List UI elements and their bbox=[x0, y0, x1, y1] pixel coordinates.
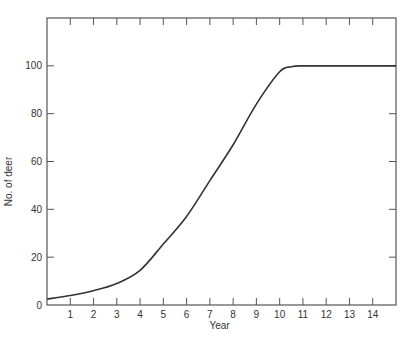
y-axis-title: No. of deer bbox=[3, 156, 14, 206]
y-tick-label: 80 bbox=[31, 108, 43, 119]
x-tick-label: 11 bbox=[298, 309, 309, 320]
x-tick-label: 12 bbox=[321, 309, 333, 320]
x-tick-label: 3 bbox=[114, 309, 120, 320]
x-tick-label: 1 bbox=[67, 309, 73, 320]
series-line-deer-population bbox=[47, 66, 396, 299]
x-tick-label: 10 bbox=[274, 309, 286, 320]
x-tick-label: 7 bbox=[207, 309, 213, 320]
y-tick-label: 100 bbox=[25, 60, 42, 71]
y-tick-label: 60 bbox=[31, 156, 43, 167]
plot-frame bbox=[47, 18, 396, 305]
x-tick-label: 9 bbox=[254, 309, 260, 320]
x-axis-title: Year bbox=[209, 320, 230, 331]
x-tick-label: 13 bbox=[344, 309, 356, 320]
y-tick-label: 40 bbox=[31, 204, 43, 215]
chart: 1234567891011121314 020406080100 Year No… bbox=[0, 0, 414, 344]
y-axis-ticks: 020406080100 bbox=[25, 60, 396, 310]
x-tick-label: 8 bbox=[230, 309, 236, 320]
series-layer bbox=[47, 66, 396, 299]
x-tick-label: 4 bbox=[137, 309, 143, 320]
x-axis-ticks: 1234567891011121314 bbox=[67, 18, 378, 320]
y-tick-label: 0 bbox=[36, 300, 42, 311]
x-tick-label: 6 bbox=[184, 309, 190, 320]
y-tick-label: 20 bbox=[31, 252, 43, 263]
x-tick-label: 5 bbox=[161, 309, 167, 320]
x-tick-label: 14 bbox=[367, 309, 379, 320]
x-tick-label: 2 bbox=[91, 309, 97, 320]
